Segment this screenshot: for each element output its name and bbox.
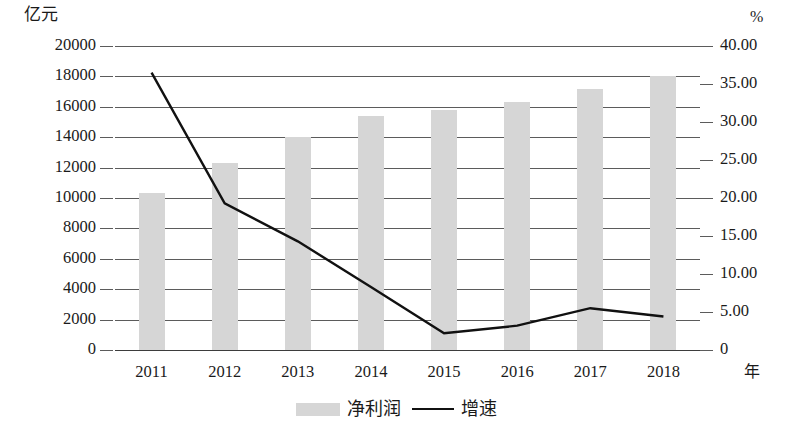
right-tick-label-40.00: 40.00 [720,37,757,54]
right-axis-tick [700,274,713,275]
x-tick-label-2014: 2014 [341,364,401,381]
right-tick-label-35.00: 35.00 [720,75,757,92]
gridline [115,320,700,321]
right-axis-tick [700,84,713,85]
left-axis-tick [100,198,113,199]
x-tick-label-2011: 2011 [122,364,182,381]
legend-item-growth-rate: 增速 [412,400,497,418]
x-axis-unit-label: 年 [744,364,760,380]
right-tick-label-0: 0 [720,341,728,358]
bar-2017 [577,89,603,350]
left-axis-tick [100,289,113,290]
bar-2014 [358,116,384,350]
left-tick-label-2000: 2000 [63,311,96,328]
gridline [115,289,700,290]
x-tick-label-2017: 2017 [560,364,620,381]
left-tick-label-4000: 4000 [63,280,96,297]
left-tick-label-6000: 6000 [63,250,96,267]
left-tick-label-16000: 16000 [55,98,96,115]
bar-2015 [431,110,457,350]
bar-2018 [650,76,676,350]
left-axis-tick [100,46,113,47]
gridline [115,198,700,199]
gridline [115,76,700,77]
left-axis-tick [100,168,113,169]
right-axis-tick [700,350,713,351]
gridline [115,137,700,138]
bar-2013 [285,137,311,350]
left-axis-tick [100,350,113,351]
right-axis-tick [700,312,713,313]
gridline [115,228,700,229]
left-axis-tick [100,76,113,77]
right-tick-label-20.00: 20.00 [720,189,757,206]
legend-item-net-profit: 净利润 [296,400,401,418]
left-axis-unit-label: 亿元 [24,6,58,23]
gridline [115,46,700,47]
left-axis-tick [100,137,113,138]
left-axis-tick [100,320,113,321]
chart-legend: 净利润 增速 [0,400,792,418]
legend-label-growth-rate: 增速 [461,400,497,418]
left-tick-label-10000: 10000 [55,189,96,206]
x-tick-label-2018: 2018 [633,364,693,381]
gridline [115,107,700,108]
bar-2011 [139,193,165,350]
right-tick-label-5.00: 5.00 [720,303,749,320]
bar-2016 [504,102,530,350]
gridline [115,350,700,351]
left-tick-label-14000: 14000 [55,128,96,145]
bar-swatch-icon [296,403,340,416]
right-axis-unit-label: % [750,8,763,25]
left-tick-label-8000: 8000 [63,219,96,236]
gridline [115,168,700,169]
right-axis-tick [700,122,713,123]
legend-label-net-profit: 净利润 [347,400,401,418]
chart-container: 亿元 % 02000400060008000100001200014000160… [0,0,792,436]
right-tick-label-30.00: 30.00 [720,113,757,130]
x-tick-label-2013: 2013 [268,364,328,381]
left-tick-label-0: 0 [88,341,96,358]
left-axis-tick [100,228,113,229]
left-tick-label-18000: 18000 [55,67,96,84]
right-axis-tick [700,160,713,161]
right-axis-tick [700,198,713,199]
gridline [115,259,700,260]
x-tick-label-2016: 2016 [487,364,547,381]
x-tick-label-2015: 2015 [414,364,474,381]
left-axis-tick [100,107,113,108]
left-tick-label-12000: 12000 [55,159,96,176]
plot-area [115,46,700,350]
x-tick-label-2012: 2012 [195,364,255,381]
line-swatch-icon [412,408,454,410]
right-tick-label-15.00: 15.00 [720,227,757,244]
left-tick-label-20000: 20000 [55,37,96,54]
left-axis-tick [100,259,113,260]
right-axis-tick [700,46,713,47]
right-tick-label-25.00: 25.00 [720,151,757,168]
right-axis-tick [700,236,713,237]
bar-2012 [212,163,238,350]
right-tick-label-10.00: 10.00 [720,265,757,282]
